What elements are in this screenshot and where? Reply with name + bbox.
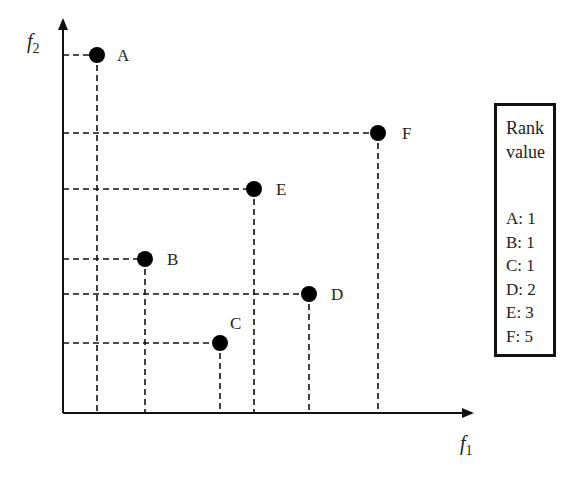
y-axis-label: f2 bbox=[27, 30, 40, 56]
rank-entry: A: 1 bbox=[506, 207, 536, 231]
data-point-a bbox=[89, 47, 105, 63]
point-label-d: D bbox=[331, 285, 343, 304]
rank-entry: D: 2 bbox=[506, 278, 536, 302]
rank-entry: B: 1 bbox=[506, 231, 536, 255]
rank-entry: E: 3 bbox=[506, 301, 536, 325]
rank-list: A: 1 B: 1 C: 1 D: 2 E: 3 F: 5 bbox=[506, 207, 536, 348]
legend-title: Rank value bbox=[506, 116, 545, 164]
data-point-f bbox=[370, 125, 386, 141]
legend-title-line1: Rank bbox=[506, 116, 545, 140]
point-label-f: F bbox=[402, 124, 411, 143]
legend-title-line2: value bbox=[506, 140, 545, 164]
point-label-e: E bbox=[276, 180, 286, 199]
x-axis-label: f1 bbox=[460, 432, 473, 458]
data-points: ABCDEF bbox=[89, 46, 411, 351]
rank-entry: C: 1 bbox=[506, 254, 536, 278]
rank-value-legend: Rank value A: 1 B: 1 C: 1 D: 2 E: 3 F: 5 bbox=[494, 103, 556, 357]
data-point-d bbox=[301, 286, 317, 302]
data-point-e bbox=[246, 181, 262, 197]
data-point-b bbox=[137, 251, 153, 267]
point-label-b: B bbox=[167, 250, 178, 269]
point-label-a: A bbox=[117, 46, 130, 65]
data-point-c bbox=[212, 335, 228, 351]
rank-entry: F: 5 bbox=[506, 325, 536, 349]
projection-lines bbox=[63, 55, 378, 413]
point-label-c: C bbox=[230, 314, 241, 333]
